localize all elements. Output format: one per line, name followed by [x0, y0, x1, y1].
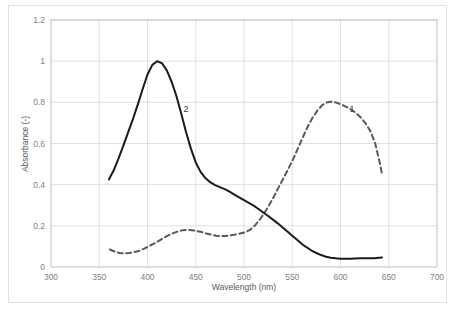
x-tick-label: 300 [44, 272, 58, 282]
series-annotation-2: 2 [184, 104, 189, 114]
y-axis-tick-labels: 00.20.40.60.811.2 [33, 15, 45, 272]
x-tick-label: 400 [140, 272, 154, 282]
y-axis-title: Absorbance (-) [20, 116, 30, 172]
x-tick-label: 450 [189, 272, 203, 282]
x-tick-label: 700 [430, 272, 444, 282]
x-axis-title: Wavelength (nm) [212, 282, 277, 292]
series-annotation-1: 1 [350, 104, 355, 114]
figure-container: 300350400450500550600650700 00.20.40.60.… [0, 0, 455, 313]
x-tick-label: 500 [237, 272, 251, 282]
x-tick-label: 600 [333, 272, 347, 282]
y-tick-label: 0 [40, 262, 45, 272]
x-tick-label: 550 [285, 272, 299, 282]
absorbance-spectra-chart: 300350400450500550600650700 00.20.40.60.… [0, 0, 455, 313]
x-tick-label: 350 [92, 272, 106, 282]
y-tick-label: 0.4 [33, 180, 45, 190]
y-tick-label: 0.2 [33, 221, 45, 231]
x-tick-label: 650 [382, 272, 396, 282]
y-tick-label: 1.2 [33, 15, 45, 25]
y-tick-label: 0.6 [33, 139, 45, 149]
y-tick-label: 1 [40, 56, 45, 66]
y-tick-label: 0.8 [33, 97, 45, 107]
x-axis-tick-labels: 300350400450500550600650700 [44, 272, 444, 282]
